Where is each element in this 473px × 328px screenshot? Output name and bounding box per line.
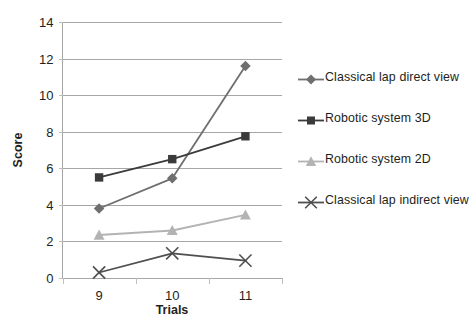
series-line [99, 66, 245, 209]
data-point-marker [241, 132, 249, 140]
legend-item[interactable]: Robotic system 2D [297, 152, 473, 170]
y-tick-label: 12 [39, 52, 53, 67]
y-tick-label: 4 [46, 198, 53, 213]
legend-marker-icon [297, 153, 325, 170]
x-axis-title: Trials [156, 303, 189, 317]
plot-area-container: 02468101214 91011 Trials Score [0, 0, 300, 328]
legend-marker-icon [297, 71, 325, 88]
chart-plot-svg: 02468101214 91011 Trials Score [0, 0, 300, 328]
chart-legend: Classical lap direct viewRobotic system … [297, 70, 473, 234]
x-tick-labels: 91011 [95, 288, 252, 303]
x-tick-label: 9 [95, 288, 102, 303]
series-x [93, 247, 252, 278]
legend-item[interactable]: Classical lap indirect view [297, 193, 473, 211]
data-point-marker [95, 173, 103, 181]
y-tick-labels: 02468101214 [39, 15, 53, 286]
series-line [99, 253, 245, 272]
legend-marker-icon [297, 112, 325, 129]
legend-marker-icon [297, 194, 325, 211]
data-point-marker [240, 61, 251, 71]
data-point-marker [168, 155, 176, 163]
y-tick-marks [59, 23, 63, 279]
legend-label: Classical lap indirect view [325, 193, 469, 208]
legend-item[interactable]: Robotic system 3D [297, 111, 473, 129]
series-triangle [94, 209, 251, 239]
legend-label: Robotic system 3D [325, 111, 431, 126]
data-point-marker [306, 75, 316, 85]
y-tick-label: 8 [46, 125, 53, 140]
y-tick-label: 14 [39, 15, 53, 30]
x-tick-label: 11 [239, 288, 253, 303]
series-diamond [94, 61, 251, 214]
x-tick-label: 10 [165, 288, 179, 303]
data-point-marker [240, 209, 251, 219]
data-point-marker [94, 203, 105, 214]
data-series-group [93, 61, 252, 279]
y-tick-label: 10 [39, 88, 53, 103]
data-point-marker [167, 173, 178, 184]
y-tick-label: 0 [46, 271, 53, 286]
legend-label: Robotic system 2D [325, 152, 431, 167]
legend-label: Classical lap direct view [325, 70, 459, 85]
legend-item[interactable]: Classical lap direct view [297, 70, 473, 88]
y-tick-label: 6 [46, 161, 53, 176]
y-tick-label: 2 [46, 234, 53, 249]
chart-figure: 02468101214 91011 Trials Score Classical… [0, 0, 473, 328]
y-axis-title: Score [11, 133, 25, 168]
data-point-marker [307, 117, 315, 125]
